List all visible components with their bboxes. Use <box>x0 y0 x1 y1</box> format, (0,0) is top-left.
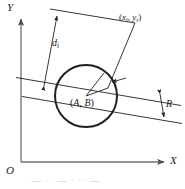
geometry-figure: Y X O (xi, yi) di (A, B) R · — ·· — · ··… <box>0 0 185 189</box>
circle-center-label: (A, B) <box>70 98 94 108</box>
lower-offset-line <box>22 97 182 124</box>
caption-fragment: · — ·· — · ·· — <box>24 178 100 185</box>
x-axis-label: X <box>170 155 177 166</box>
y-axis-label: Y <box>7 2 13 13</box>
di-dimension-line <box>44 16 57 86</box>
distance-label: di <box>52 38 59 50</box>
radius-dimension-group <box>160 94 164 117</box>
center-close-paren: ) <box>91 97 94 108</box>
caption-strip: · — ·· — · ·· — <box>0 178 185 189</box>
parallel-lines-group <box>16 78 182 124</box>
data-point-label: (xi, yi) <box>119 13 141 23</box>
di-right-edge <box>108 23 135 88</box>
figure-canvas <box>0 0 185 189</box>
point-marker-group <box>112 78 126 82</box>
distance-subscript: i <box>57 42 59 50</box>
origin-label: O <box>6 165 14 176</box>
point-close-paren: ) <box>138 12 141 22</box>
point-tick <box>112 78 126 82</box>
di-dimension-group <box>44 16 57 86</box>
radius-label: R <box>166 99 172 109</box>
radius-dimension-line <box>160 94 164 117</box>
